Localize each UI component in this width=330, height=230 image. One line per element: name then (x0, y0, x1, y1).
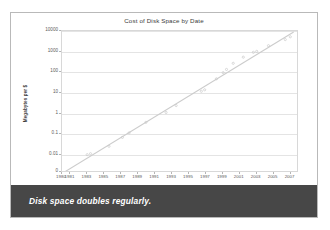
data-point (175, 104, 177, 106)
x-axis-tick-mark (61, 172, 62, 174)
data-point (108, 145, 110, 147)
x-axis-tick-mark (205, 172, 206, 174)
x-axis-tick-label: 2001 (234, 175, 244, 179)
chart-plot-svg (62, 31, 297, 171)
data-point (232, 62, 234, 64)
x-axis-tick-mark (86, 172, 87, 174)
data-point (165, 111, 167, 113)
x-axis-tick-mark (171, 172, 172, 174)
x-axis-tick-label: 1993 (166, 175, 176, 179)
x-axis-tick-label: 2007 (285, 175, 295, 179)
y-axis-tick-label: 1000 (48, 48, 58, 53)
x-axis-tick-mark (103, 172, 104, 174)
x-axis-tick-label: 1989 (132, 175, 142, 179)
chart-panel: Cost of Disk Space by Date Megabytes per… (11, 13, 317, 187)
data-point (200, 90, 202, 92)
y-axis-tick-label: 0.01 (49, 152, 58, 157)
x-axis-tick-mark (188, 172, 189, 174)
x-axis-tick-label: 1983 (82, 175, 92, 179)
data-point (225, 68, 227, 70)
x-axis-ticks: 1980198119831985198719891991199319951997… (61, 172, 298, 186)
x-axis-tick-mark (256, 172, 257, 174)
x-axis-tick-label: 1995 (183, 175, 193, 179)
data-point (204, 89, 206, 91)
data-point (252, 51, 254, 53)
y-axis-tick-label: 10 (53, 90, 58, 95)
y-axis-tick-mark (59, 133, 61, 134)
data-point (86, 154, 88, 156)
data-point (89, 153, 91, 155)
x-axis-tick-label: 2003 (251, 175, 261, 179)
x-axis-tick-mark (290, 172, 291, 174)
data-point (267, 45, 269, 47)
x-axis-tick-label: 1985 (98, 175, 108, 179)
x-axis-tick-mark (273, 172, 274, 174)
x-axis-tick-mark (154, 172, 155, 174)
x-axis-tick-mark (120, 172, 121, 174)
x-axis-tick-mark (69, 172, 70, 174)
plot-area (61, 30, 298, 172)
y-axis-tick-label: 0 (55, 169, 58, 174)
x-axis-tick-mark (239, 172, 240, 174)
data-point (222, 72, 224, 74)
y-axis-tick-label: 10000 (45, 28, 58, 33)
data-point (284, 38, 286, 40)
data-point (242, 56, 244, 58)
x-axis-tick-mark (222, 172, 223, 174)
y-axis-tick-mark (59, 92, 61, 93)
data-point (121, 136, 123, 138)
caption-text: Disk space doubles regularly. (29, 196, 151, 206)
x-axis-tick-mark (137, 172, 138, 174)
caption-banner: Disk space doubles regularly. (11, 185, 317, 217)
y-axis-tick-mark (59, 154, 61, 155)
y-axis-title: Megabytes per $ (23, 85, 28, 123)
x-axis-tick-label: 1991 (149, 175, 159, 179)
y-axis-tick-mark (59, 30, 61, 31)
chart-title: Cost of Disk Space by Date (11, 17, 317, 24)
x-axis-tick-label: 1999 (217, 175, 227, 179)
y-axis-tick-mark (59, 71, 61, 72)
y-axis-tick-label: 100 (50, 69, 58, 74)
y-axis-tick-mark (59, 51, 61, 52)
y-axis-tick-label: 1 (55, 110, 58, 115)
data-point (289, 36, 291, 38)
x-axis-tick-label: 2005 (268, 175, 278, 179)
x-axis-tick-label: 1997 (200, 175, 210, 179)
figure-card: Cost of Disk Space by Date Megabytes per… (10, 12, 318, 218)
y-axis-tick-label: 0.1 (52, 131, 58, 136)
y-axis-tick-mark (59, 113, 61, 114)
x-axis-tick-label: 1987 (115, 175, 125, 179)
data-point (256, 50, 258, 52)
x-axis-tick-label: 1981 (65, 175, 75, 179)
trendline (65, 32, 294, 171)
